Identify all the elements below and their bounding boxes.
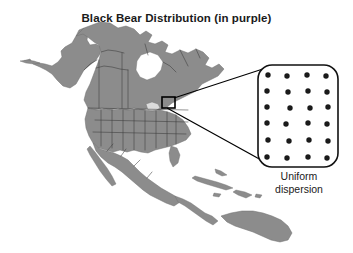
dispersion-inset-frame xyxy=(258,65,338,167)
dispersion-dot xyxy=(325,104,330,109)
inset-caption-line-2: dispersion xyxy=(252,183,346,196)
callout-connector-lines xyxy=(167,66,272,166)
dispersion-dot xyxy=(323,73,328,78)
dispersion-dot xyxy=(324,89,329,94)
dispersion-dot xyxy=(285,89,290,94)
dispersion-dot xyxy=(264,104,269,109)
dispersion-dot xyxy=(284,155,289,160)
dispersion-dot xyxy=(305,88,310,93)
dispersion-dot xyxy=(304,72,309,77)
figure-container: Black Bear Distribution (in purple) xyxy=(0,0,353,253)
dispersion-dot xyxy=(305,154,310,159)
dispersion-dot xyxy=(264,88,269,93)
inset-caption: Uniform dispersion xyxy=(252,170,346,196)
dispersion-dot xyxy=(307,105,312,110)
dispersion-dot xyxy=(265,137,270,142)
dispersion-dot xyxy=(284,73,289,78)
dispersion-dot xyxy=(287,105,292,110)
dispersion-dot xyxy=(324,155,329,160)
dispersion-dot xyxy=(286,138,291,143)
connector-line-bottom xyxy=(167,108,272,166)
dispersion-dot xyxy=(264,120,269,125)
dispersion-dot xyxy=(265,72,270,77)
inset-caption-line-1: Uniform xyxy=(252,170,346,183)
dispersion-dot xyxy=(325,138,330,143)
callout-overlay xyxy=(0,0,353,253)
dispersion-dot xyxy=(306,137,311,142)
dispersion-dot xyxy=(283,121,288,126)
dispersion-dot xyxy=(324,121,329,126)
dispersion-dot xyxy=(264,154,269,159)
dispersion-dot xyxy=(305,120,310,125)
